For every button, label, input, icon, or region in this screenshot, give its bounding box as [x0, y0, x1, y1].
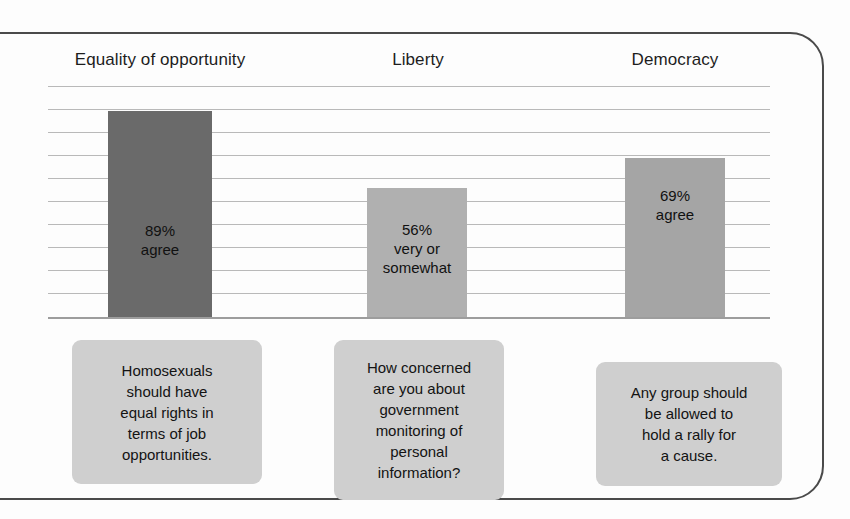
question-text-line: information?: [367, 462, 471, 483]
bar-value-label: 89%agree: [108, 221, 212, 259]
figure-canvas: Equality of opportunity Liberty Democrac…: [0, 0, 850, 519]
question-text-line: a cause.: [631, 445, 748, 466]
question-box-3: Any group shouldbe allowed tohold a rall…: [596, 362, 782, 486]
bar-2: 56%very orsomewhat: [367, 188, 467, 317]
bar-label-line: 56%: [367, 220, 467, 239]
question-box-1: Homosexualsshould haveequal rights inter…: [72, 340, 262, 484]
bar-label-line: agree: [625, 205, 725, 224]
gridline: [48, 86, 770, 87]
question-text: How concernedare you aboutgovernmentmoni…: [367, 357, 471, 483]
bar-1: 89%agree: [108, 111, 212, 317]
question-text-line: government: [367, 399, 471, 420]
column-header-equality: Equality of opportunity: [30, 50, 290, 70]
question-text-line: Homosexuals: [120, 360, 213, 381]
question-text-line: How concerned: [367, 357, 471, 378]
bar-label-line: somewhat: [367, 258, 467, 277]
gridline: [48, 109, 770, 110]
bar-label-line: 69%: [625, 186, 725, 205]
question-text: Any group shouldbe allowed tohold a rall…: [631, 382, 748, 466]
question-text-line: hold a rally for: [631, 424, 748, 445]
question-text-line: terms of job: [120, 423, 213, 444]
question-box-2: How concernedare you aboutgovernmentmoni…: [334, 340, 504, 500]
axis-baseline: [48, 317, 770, 319]
bar-value-label: 69%agree: [625, 186, 725, 224]
bar-label-line: 89%: [108, 221, 212, 240]
column-header-democracy: Democracy: [570, 50, 780, 70]
question-text-line: opportunities.: [120, 444, 213, 465]
bar-value-label: 56%very orsomewhat: [367, 220, 467, 277]
question-text-line: Any group should: [631, 382, 748, 403]
bar-label-line: agree: [108, 240, 212, 259]
question-text-line: be allowed to: [631, 403, 748, 424]
question-text: Homosexualsshould haveequal rights inter…: [120, 360, 213, 465]
question-text-line: monitoring of: [367, 420, 471, 441]
column-header-liberty: Liberty: [318, 50, 518, 70]
question-text-line: personal: [367, 441, 471, 462]
question-text-line: equal rights in: [120, 402, 213, 423]
question-text-line: are you about: [367, 378, 471, 399]
question-text-line: should have: [120, 381, 213, 402]
bar-label-line: very or: [367, 239, 467, 258]
bar-3: 69%agree: [625, 158, 725, 317]
chart-plot-area: Equality of opportunity Liberty Democrac…: [0, 0, 850, 519]
